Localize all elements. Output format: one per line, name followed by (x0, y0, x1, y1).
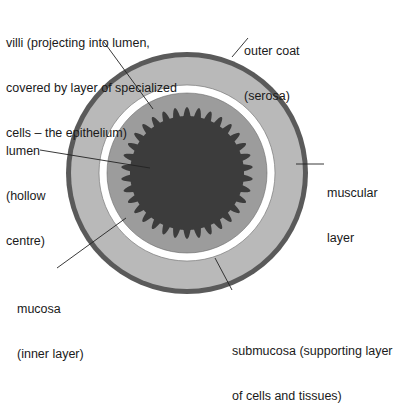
submucosa-label-line-1: submucosa (supporting layer (232, 344, 393, 359)
submucosa-label: submucosa (supporting layer of cells and… (232, 314, 393, 407)
outer-coat-label: outer coat (serosa) (244, 14, 300, 134)
submucosa-label-line-2: of cells and tissues) (232, 389, 393, 404)
lumen-label-line-2: (hollow (6, 189, 46, 204)
lumen-label: lumen (hollow centre) (6, 114, 46, 279)
villi-label-line-1: villi (projecting into lumen, (6, 36, 177, 51)
lumen-label-line-3: centre) (6, 234, 46, 249)
outer-coat-label-line-1: outer coat (244, 44, 300, 59)
outer-coat-label-line-2: (serosa) (244, 89, 300, 104)
muscular-label-line-1: muscular (327, 186, 378, 201)
villi-label-line-2: covered by layer of specialized (6, 81, 177, 96)
muscular-label-line-2: layer (327, 231, 378, 246)
muscular-layer-label: muscular layer (327, 156, 378, 276)
mucosa-label-line-2: (inner layer) (17, 347, 84, 362)
mucosa-label: mucosa (inner layer) (17, 272, 84, 392)
mucosa-label-line-1: mucosa (17, 302, 84, 317)
lumen-label-line-1: lumen (6, 144, 46, 159)
